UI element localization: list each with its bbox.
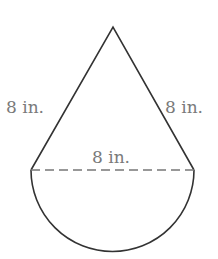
- diameter-label: 8 in.: [92, 147, 130, 167]
- composite-figure: 8 in. 8 in. 8 in.: [0, 0, 218, 259]
- right-side-label: 8 in.: [165, 97, 203, 117]
- left-side-label: 8 in.: [6, 97, 44, 117]
- semicircle-arc: [31, 170, 194, 251]
